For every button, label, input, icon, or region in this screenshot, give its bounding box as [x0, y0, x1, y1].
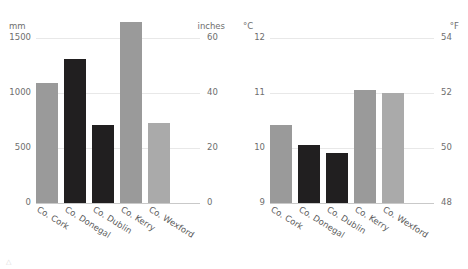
temperature-bar-group: [270, 38, 434, 203]
rainfall-chart-panel: mm inches 1500 1000 500 0 60 40 20 0 Co.…: [0, 0, 234, 269]
ytick-left-12: 12: [254, 33, 265, 42]
rainfall-plot-area: 1500 1000 500 0 60 40 20 0: [36, 38, 200, 203]
bar-rainfall-co-wexford[interactable]: [148, 123, 170, 203]
ytick-left-11: 11: [254, 88, 265, 97]
temperature-left-axis-unit: °C: [243, 22, 253, 31]
bar-rainfall-co-cork[interactable]: [36, 83, 58, 203]
ytick-left-1500: 1500: [9, 33, 31, 42]
rainfall-right-axis-unit: inches: [198, 22, 225, 31]
ytick-right-40: 40: [207, 88, 218, 97]
rainfall-left-axis-unit: mm: [9, 22, 26, 31]
ytick-left-10: 10: [254, 143, 265, 152]
ytick-right-20: 20: [207, 143, 218, 152]
ytick-left-0: 0: [26, 198, 31, 207]
temperature-plot-area: 12 11 10 9 54 52 50 48: [270, 38, 434, 203]
corner-mark-icon: △: [6, 259, 11, 265]
ytick-left-9: 9: [260, 198, 265, 207]
bar-rainfall-co-kerry[interactable]: [120, 22, 142, 203]
bar-temperature-co-kerry[interactable]: [354, 90, 376, 203]
bar-temperature-co-cork[interactable]: [270, 125, 292, 203]
ytick-left-500: 500: [15, 143, 31, 152]
temperature-chart-panel: °C °F 12 11 10 9 54 52 50 48 Co. Cork Co…: [234, 0, 468, 269]
ytick-right-48: 48: [441, 198, 452, 207]
bar-rainfall-co-donegal[interactable]: [64, 59, 86, 203]
ytick-right-0: 0: [207, 198, 212, 207]
bar-temperature-co-wexford[interactable]: [382, 93, 404, 203]
ytick-right-52: 52: [441, 88, 452, 97]
ytick-right-50: 50: [441, 143, 452, 152]
bar-rainfall-co-dublin[interactable]: [92, 125, 114, 203]
chart-screenshot: { "chart_data": [ { "id": "rainfall", "t…: [0, 0, 468, 269]
ytick-left-1000: 1000: [9, 88, 31, 97]
axis-baseline: [270, 203, 434, 204]
ytick-right-60: 60: [207, 33, 218, 42]
temperature-right-axis-unit: °F: [450, 22, 459, 31]
axis-baseline: [36, 203, 200, 204]
bar-temperature-co-dublin[interactable]: [326, 153, 348, 203]
rainfall-bar-group: [36, 38, 200, 203]
ytick-right-54: 54: [441, 33, 452, 42]
bar-temperature-co-donegal[interactable]: [298, 145, 320, 203]
rainfall-category-labels: Co. Cork Co. Donegal Co. Dublin Co. Kerr…: [36, 205, 200, 265]
temperature-category-labels: Co. Cork Co. Donegal Co. Dublin Co. Kerr…: [270, 205, 434, 265]
